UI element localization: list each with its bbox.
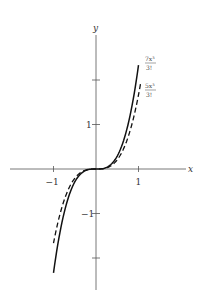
svg-text:7x³: 7x³ (145, 55, 155, 62)
label-solid-curve: 7x³ 3! (145, 55, 156, 71)
svg-text:1: 1 (86, 120, 92, 130)
svg-text:3!: 3! (146, 91, 152, 98)
y-axis-label: y (92, 23, 99, 33)
x-axis-label: x (188, 164, 193, 174)
dashed-curve (54, 83, 141, 243)
svg-text:3!: 3! (146, 64, 152, 71)
curve-labels: 7x³ 3! 5x³ 3! (145, 55, 156, 98)
svg-text:1: 1 (136, 177, 142, 187)
cubic-plot: x y −111−1 7x³ 3! 5x³ 3! (0, 0, 204, 295)
svg-text:−1: −1 (46, 177, 59, 187)
svg-text:5x³: 5x³ (145, 82, 155, 89)
svg-text:−1: −1 (81, 209, 94, 219)
label-dashed-curve: 5x³ 3! (145, 82, 156, 98)
axes: x y (10, 23, 193, 290)
